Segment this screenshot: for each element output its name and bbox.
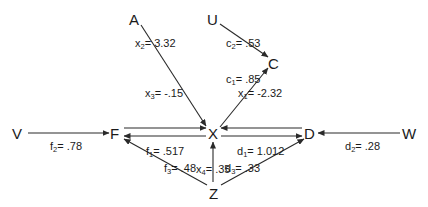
node-z: Z: [209, 185, 218, 202]
node-x: X: [208, 125, 218, 142]
svg-text:x1= -2.32: x1= -2.32: [238, 87, 282, 101]
svg-text:d3= .33: d3= .33: [225, 162, 260, 176]
node-v: V: [12, 125, 22, 142]
label-d1: d1= 1.012: [237, 145, 284, 159]
node-a: A: [129, 11, 139, 28]
label-d3: d3= .33: [225, 162, 260, 176]
svg-text:c2= .53: c2= .53: [226, 37, 260, 51]
label-d2: d2= .28: [345, 140, 380, 154]
svg-text:x3= -.15: x3= -.15: [145, 87, 183, 101]
path-diagram: A U C V F X D W Z x2= 3.32 c2= .53 c1= .…: [0, 0, 428, 207]
svg-text:d1= 1.012: d1= 1.012: [237, 145, 284, 159]
node-d: D: [304, 125, 315, 142]
svg-text:x2= 3.32: x2= 3.32: [135, 37, 176, 51]
svg-text:f1= .517: f1= .517: [146, 145, 184, 159]
label-c1: c1= .85: [226, 73, 260, 87]
label-c2: c2= .53: [226, 37, 260, 51]
svg-text:c1= .85: c1= .85: [226, 73, 260, 87]
svg-text:d2= .28: d2= .28: [345, 140, 380, 154]
label-f2: f2= .78: [50, 140, 82, 154]
node-c: C: [268, 55, 279, 72]
label-f1: f1= .517: [146, 145, 184, 159]
node-f: F: [110, 125, 119, 142]
node-w: W: [402, 125, 417, 142]
label-x3: x3= -.15: [145, 87, 183, 101]
label-x2: x2= 3.32: [135, 37, 176, 51]
svg-text:f2= .78: f2= .78: [50, 140, 82, 154]
node-u: U: [207, 11, 218, 28]
label-x1: x1= -2.32: [238, 87, 282, 101]
